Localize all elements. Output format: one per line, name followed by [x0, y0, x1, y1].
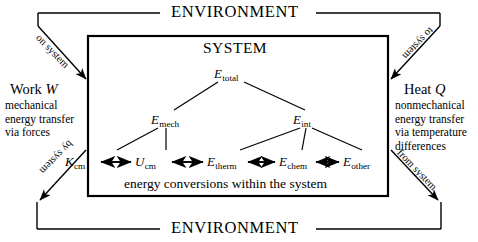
- node-e-total-subscript: total: [222, 73, 238, 83]
- node-e-mech-subscript: mech: [159, 119, 179, 129]
- system-title: SYSTEM: [203, 40, 267, 57]
- node-e-chem-symbol: E: [279, 154, 287, 169]
- node-e-mech: Emech: [151, 112, 179, 128]
- system-box: [88, 36, 388, 196]
- node-e-other: Eother: [343, 154, 370, 170]
- energy-conversions-caption: energy conversions within the system: [124, 177, 327, 192]
- tree-edge-total-int: [244, 82, 305, 110]
- tree-edge-int-echem: [302, 128, 306, 150]
- work-heading-prefix: Work: [10, 81, 45, 97]
- node-k-cm: Kcm: [65, 154, 85, 170]
- heat-heading: Heat Q: [404, 82, 445, 98]
- tree-edge-int-etherm: [240, 128, 300, 150]
- energy-system-diagram: ENVIRONMENT ENVIRONMENT SYSTEM Work W me…: [0, 0, 478, 242]
- node-e-therm-symbol: E: [207, 154, 215, 169]
- node-e-mech-symbol: E: [151, 112, 159, 127]
- node-e-therm: Etherm: [207, 154, 236, 170]
- node-e-int-symbol: E: [293, 112, 301, 127]
- node-u-cm-subscript: cm: [145, 161, 156, 171]
- node-k-cm-subscript: cm: [74, 161, 85, 171]
- heat-symbol: Q: [435, 81, 445, 97]
- node-e-chem: Echem: [279, 154, 307, 170]
- environment-bottom-label: ENVIRONMENT: [166, 219, 304, 237]
- node-e-total: Etotal: [214, 66, 238, 82]
- heat-heading-prefix: Heat: [404, 81, 435, 97]
- tree-edge-int-eother: [312, 128, 362, 150]
- node-e-total-symbol: E: [214, 66, 222, 81]
- work-heading: Work W: [10, 82, 58, 98]
- node-e-other-symbol: E: [343, 154, 351, 169]
- node-k-cm-symbol: K: [65, 154, 74, 169]
- work-description: mechanical energy transfer via forces: [5, 99, 74, 140]
- node-u-cm-symbol: U: [135, 154, 144, 169]
- node-e-int: Eint: [293, 112, 311, 128]
- node-e-other-subscript: other: [351, 161, 370, 171]
- node-e-int-subscript: int: [301, 119, 311, 129]
- environment-top-label: ENVIRONMENT: [166, 3, 304, 21]
- node-e-therm-subscript: therm: [215, 161, 236, 171]
- work-symbol: W: [45, 81, 57, 97]
- tree-edge-total-mech: [174, 82, 218, 110]
- heat-description: nonmechanical energy transfer via temper…: [395, 99, 467, 153]
- tree-edge-mech-kcm: [117, 128, 158, 150]
- node-u-cm: Ucm: [135, 154, 156, 170]
- node-e-chem-subscript: chem: [287, 161, 307, 171]
